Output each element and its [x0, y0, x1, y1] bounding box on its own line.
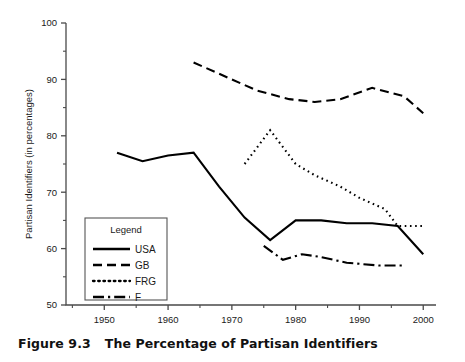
legend-label-frg: FRG — [135, 276, 156, 287]
caption-title: The Percentage of Partisan Identifiers — [105, 336, 378, 351]
x-tick-label: 2000 — [413, 314, 434, 325]
y-tick-label: 90 — [46, 74, 57, 85]
x-tick-label: 1960 — [157, 314, 178, 325]
caption-number: Figure 9.3 — [18, 336, 91, 351]
line-chart: 5060708090100195019601970198019902000Par… — [0, 0, 465, 362]
series-line-gb — [194, 62, 424, 113]
y-tick-label: 100 — [41, 17, 57, 28]
x-tick-label: 1990 — [349, 314, 370, 325]
y-tick-label: 60 — [46, 243, 57, 254]
legend-label-gb: GB — [135, 260, 150, 271]
x-tick-label: 1950 — [94, 314, 115, 325]
y-tick-label: 80 — [46, 130, 57, 141]
y-axis-title: Partisan Identifiers (in percentages) — [23, 89, 34, 239]
x-tick-label: 1980 — [285, 314, 306, 325]
y-tick-label: 70 — [46, 187, 57, 198]
figure-caption: Figure 9.3 The Percentage of Partisan Id… — [18, 336, 458, 351]
chart-legend: LegendUSAGBFRGF — [85, 218, 167, 303]
x-tick-label: 1970 — [221, 314, 242, 325]
series-line-f — [264, 246, 404, 266]
legend-title: Legend — [110, 224, 142, 235]
legend-label-f: F — [135, 292, 141, 303]
legend-label-usa: USA — [135, 244, 156, 255]
series-line-frg — [245, 130, 424, 226]
y-tick-label: 50 — [46, 299, 57, 310]
figure-container: 5060708090100195019601970198019902000Par… — [0, 0, 465, 362]
